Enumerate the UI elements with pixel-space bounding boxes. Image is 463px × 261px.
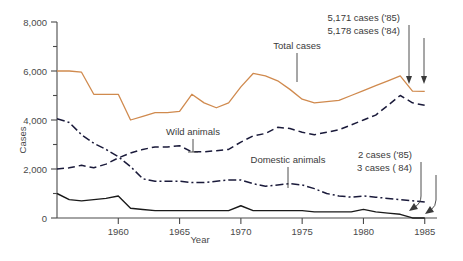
series-lines: [57, 71, 425, 218]
x-axis-tick-labels: 196019651970197519801985: [108, 226, 436, 237]
y-tick-label-6000: 6,000: [23, 66, 47, 77]
y-tick-label-8000: 8,000: [23, 17, 47, 28]
x-tick-label-1975: 1975: [292, 226, 313, 237]
annotation-other-1985: 2 cases ('85): [358, 149, 412, 160]
y-axis-title: Cases: [17, 126, 28, 153]
series-label-total-cases: Total cases: [273, 40, 321, 51]
chart-canvas: 02,0004,0006,0008,000 196019651970197519…: [0, 0, 463, 261]
y-axis-ticks: [51, 22, 57, 218]
x-axis-ticks: [118, 218, 424, 224]
y-axis-tick-labels: 02,0004,0006,0008,000: [23, 17, 47, 224]
x-tick-label-1965: 1965: [169, 226, 190, 237]
x-tick-label-1985: 1985: [414, 226, 435, 237]
x-axis-title: Year: [190, 234, 209, 245]
rabies-cases-line-chart: 02,0004,0006,0008,000 196019651970197519…: [0, 0, 463, 261]
leader-annotation-other-1985: [415, 162, 421, 207]
arrowhead-other-1985: [409, 203, 418, 211]
leader-annotation-other-1984: [431, 175, 436, 210]
annotation-other-1984: 3 cases ( 84): [357, 162, 412, 173]
series-line-total-cases: [57, 71, 425, 120]
arrowhead-total-1984: [421, 76, 427, 84]
annotation-total-1984: 5,178 cases ('84): [327, 25, 400, 36]
x-tick-label-1970: 1970: [230, 226, 251, 237]
y-tick-label-2000: 2,000: [23, 164, 47, 175]
x-tick-label-1960: 1960: [108, 226, 129, 237]
y-tick-label-4000: 4,000: [23, 115, 47, 126]
arrowhead-other-1984: [425, 206, 434, 214]
series-label-wild-animals: Wild animals: [166, 126, 220, 137]
y-tick-label-0: 0: [42, 213, 47, 224]
x-tick-label-1980: 1980: [353, 226, 374, 237]
annotation-total-1985: 5,171 cases ('85): [327, 12, 400, 23]
series-label-domestic-animals: Domestic animals: [251, 154, 326, 165]
arrowhead-total-1985: [406, 76, 412, 84]
